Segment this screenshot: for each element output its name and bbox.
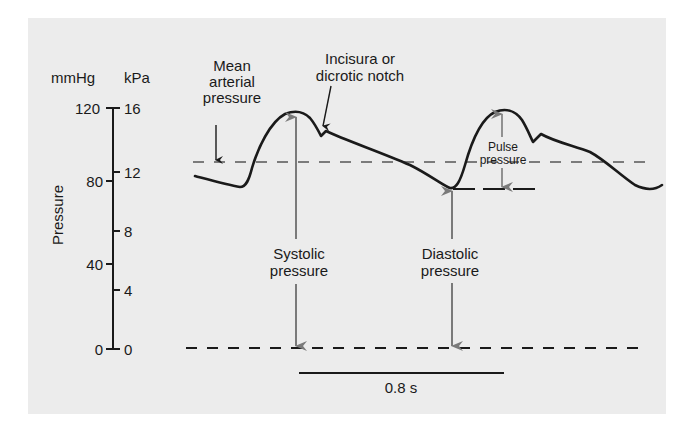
unit-kpa: kPa (124, 69, 151, 86)
tick-kpa-8: 8 (124, 223, 132, 240)
pressure-waveform (195, 110, 662, 189)
pressure-waveform-diagram: mmHg kPa 120 80 40 0 16 12 8 4 0 Pressur… (0, 0, 691, 438)
pulse-label-1: Pulse (488, 140, 518, 154)
mean-label-3: pressure (203, 89, 261, 106)
pulse-annotation: Pulse pressure (480, 114, 527, 187)
pulse-label-2: pressure (480, 153, 527, 167)
tick-mmhg-40: 40 (86, 256, 103, 273)
time-scale-label: 0.8 s (385, 379, 418, 396)
diastolic-label-2: pressure (421, 262, 479, 279)
unit-mmhg: mmHg (51, 69, 95, 86)
incisura-arrow-icon (323, 86, 331, 126)
tick-kpa-4: 4 (124, 282, 132, 299)
incisura-label-1: Incisura or (325, 50, 395, 67)
diastolic-label-1: Diastolic (422, 245, 479, 262)
incisura-label-2: dicrotic notch (316, 67, 404, 84)
systolic-label-2: pressure (270, 262, 328, 279)
incisura-annotation: Incisura or dicrotic notch (316, 50, 404, 126)
pressure-axis: mmHg kPa 120 80 40 0 16 12 8 4 0 Pressur… (49, 69, 151, 358)
systolic-annotation: Systolic pressure (270, 117, 328, 346)
mean-label-1: Mean (213, 57, 251, 74)
diastolic-annotation: Diastolic pressure (421, 191, 479, 346)
tick-kpa-12: 12 (124, 164, 141, 181)
time-scale-bar: 0.8 s (299, 373, 504, 396)
tick-kpa-0: 0 (124, 341, 132, 358)
tick-mmhg-120: 120 (75, 100, 100, 117)
tick-mmhg-0: 0 (95, 341, 103, 358)
tick-mmhg-80: 80 (86, 173, 103, 190)
systolic-label-1: Systolic (273, 245, 325, 262)
axis-title: Pressure (49, 185, 66, 245)
mean-arterial-annotation: Mean arterial pressure (203, 57, 261, 160)
tick-kpa-16: 16 (124, 100, 141, 117)
mean-label-2: arterial (209, 73, 255, 90)
